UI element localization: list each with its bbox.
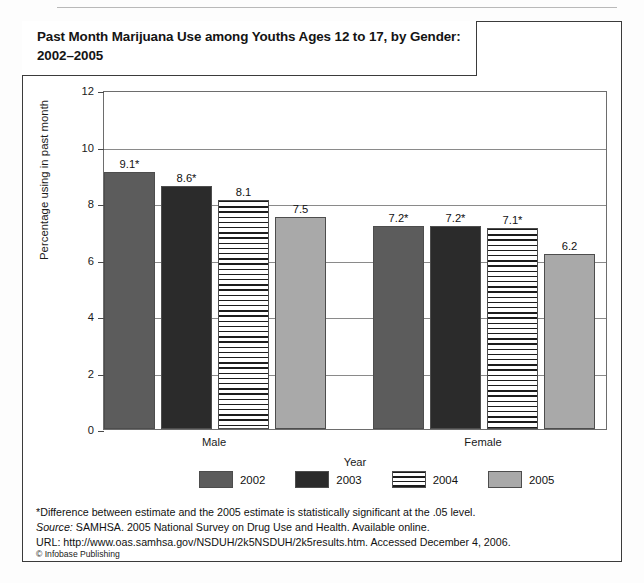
bar-value-label: 8.1	[236, 186, 252, 198]
y-axis-tick-label: 12	[82, 85, 94, 97]
bar-female-2004: 7.1*	[487, 228, 538, 429]
chart-legend: 2002200320042005	[199, 471, 584, 488]
legend-label-2005: 2005	[529, 474, 554, 486]
y-axis-tick-label: 2	[88, 368, 94, 380]
x-axis-group-label-male: Male	[202, 436, 226, 448]
bar-female-2005: 6.2	[544, 254, 595, 429]
legend-item-2003: 2003	[295, 471, 391, 488]
legend-item-2002: 2002	[199, 471, 295, 488]
bar-value-label: 6.2	[562, 240, 578, 252]
bar-male-2003: 8.6*	[161, 186, 212, 429]
page-top-rule	[57, 7, 617, 8]
figure-page: Past Month Marijuana Use among Youths Ag…	[0, 0, 644, 583]
bar-value-label: 7.1*	[503, 214, 523, 226]
plot-area: 9.1*8.6*8.17.57.2*7.2*7.1*6.2	[103, 91, 607, 430]
y-axis-tick-label: 4	[88, 311, 94, 323]
source-text: SAMHSA. 2005 National Survey on Drug Use…	[73, 521, 430, 533]
bar-male-2005: 7.5	[275, 217, 326, 429]
legend-swatch-2005	[488, 471, 522, 488]
bar-value-label: 7.2*	[446, 212, 466, 224]
gridline	[104, 149, 606, 150]
source-note: Source: SAMHSA. 2005 National Survey on …	[36, 520, 596, 535]
bar-value-label: 7.2*	[389, 212, 409, 224]
legend-item-2004: 2004	[392, 471, 488, 488]
x-axis-title: Year	[344, 456, 367, 468]
legend-item-2005: 2005	[488, 471, 584, 488]
y-axis-tick-label: 6	[88, 255, 94, 267]
y-axis-tick-label: 10	[82, 142, 94, 154]
legend-swatch-2002	[199, 471, 233, 488]
bar-male-2004: 8.1	[218, 200, 269, 429]
y-axis-tick	[98, 149, 104, 150]
legend-label-2002: 2002	[240, 474, 265, 486]
y-axis-tick-label: 8	[88, 198, 94, 210]
copyright-notice: © Infobase Publishing	[36, 549, 120, 559]
legend-swatch-2004	[392, 471, 426, 488]
url-note: URL: http://www.oas.samhsa.gov/NSDUH/2k5…	[36, 535, 596, 550]
bar-female-2003: 7.2*	[430, 226, 481, 429]
bar-value-label: 8.6*	[177, 172, 197, 184]
legend-swatch-2003	[295, 471, 329, 488]
y-axis-tick	[98, 92, 104, 93]
source-label: Source:	[36, 521, 73, 533]
y-axis-title: Percentage using in past month	[38, 100, 50, 260]
figure-title: Past Month Marijuana Use among Youths Ag…	[37, 27, 462, 66]
bar-value-label: 9.1*	[120, 158, 140, 170]
y-axis-tick-label: 0	[88, 424, 94, 436]
y-axis-tick	[98, 431, 104, 432]
legend-label-2003: 2003	[336, 474, 361, 486]
figure-notes: *Difference between estimate and the 200…	[36, 505, 596, 551]
legend-label-2004: 2004	[433, 474, 458, 486]
x-axis-group-label-female: Female	[464, 436, 501, 448]
bar-male-2002: 9.1*	[104, 172, 155, 429]
bar-female-2002: 7.2*	[373, 226, 424, 429]
figure-title-box: Past Month Marijuana Use among Youths Ag…	[22, 21, 477, 76]
bar-value-label: 7.5	[293, 203, 309, 215]
significance-note: *Difference between estimate and the 200…	[36, 505, 596, 520]
